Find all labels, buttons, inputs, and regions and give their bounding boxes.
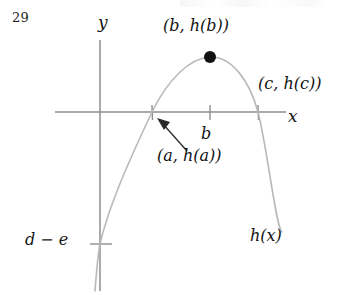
midpoint-tick-label: b <box>201 126 211 142</box>
parabola-curve <box>95 57 282 291</box>
figure-container: 29 y x (b, h(b)) (c, h(c)) b (a, h(a)) d… <box>0 0 354 295</box>
right-root-label: (c, h(c)) <box>258 76 321 92</box>
y-axis-label: y <box>98 14 108 31</box>
y-intercept-label: d − e <box>25 232 68 248</box>
left-root-label: (a, h(a)) <box>157 148 222 164</box>
x-axis-label: x <box>288 108 298 125</box>
vertex-point-marker <box>204 51 216 63</box>
annotation-arrow-head <box>157 118 170 130</box>
vertex-point-label: (b, h(b)) <box>163 18 229 34</box>
curve-name-label: h(x) <box>250 228 282 244</box>
